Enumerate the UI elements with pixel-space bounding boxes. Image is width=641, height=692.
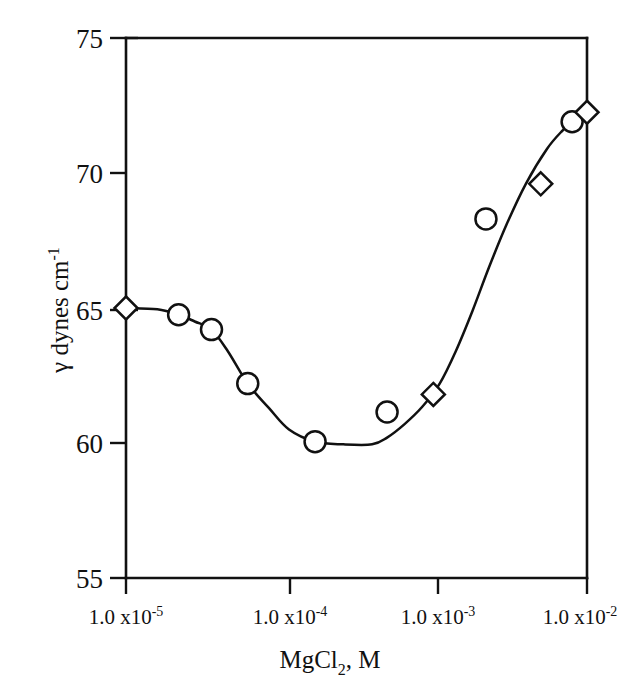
data-marker-circle xyxy=(377,401,398,422)
y-tick-label-65: 65 xyxy=(76,296,103,326)
data-marker-diamond xyxy=(529,172,552,195)
x-axis-title-pre: MgCl xyxy=(279,646,337,673)
data-marker-circle xyxy=(237,373,258,394)
figure-container: 75 70 65 60 55 1.0 x10-5 1.0 x10-4 1.0 x… xyxy=(0,0,641,692)
y-tick-label-75: 75 xyxy=(76,24,103,54)
y-axis-title-pre: γ dynes cm xyxy=(46,260,73,374)
x-axis-ticks xyxy=(126,578,587,594)
x-tick-label-1e-2-exponent: -2 xyxy=(606,604,618,619)
y-axis-title: γ dynes cm-1 xyxy=(45,247,73,374)
data-marker-circle xyxy=(475,208,496,229)
y-tick-label-60: 60 xyxy=(76,429,103,459)
x-tick-label-1e-2-mantissa: 1.0 x10 xyxy=(543,605,606,629)
data-marker-circle xyxy=(201,319,222,340)
x-tick-label-1e-5-mantissa: 1.0 x10 xyxy=(89,605,152,629)
y-tick-labels: 75 70 65 60 55 xyxy=(76,24,103,594)
x-tick-label-1e-3: 1.0 x10-3 xyxy=(401,604,476,629)
x-tick-label-1e-4: 1.0 x10-4 xyxy=(253,604,328,629)
x-tick-labels: 1.0 x10-5 1.0 x10-4 1.0 x10-3 1.0 x10-2 xyxy=(89,604,618,629)
x-tick-label-1e-4-exponent: -4 xyxy=(316,604,328,619)
x-tick-label-1e-5-exponent: -5 xyxy=(152,604,164,619)
x-axis-title-sub: 2 xyxy=(338,661,346,678)
data-markers-layer xyxy=(115,101,599,452)
y-axis-title-sup: -1 xyxy=(45,247,62,260)
data-marker-circle xyxy=(305,431,326,452)
x-axis-title: MgCl2, M xyxy=(279,646,380,678)
x-axis-title-post: , M xyxy=(346,646,381,673)
y-tick-label-70: 70 xyxy=(76,159,103,189)
x-tick-label-1e-3-exponent: -3 xyxy=(464,604,476,619)
x-tick-label-1e-4-mantissa: 1.0 x10 xyxy=(253,605,316,629)
data-marker-circle xyxy=(168,304,189,325)
data-marker-diamond xyxy=(115,297,138,320)
x-tick-label-1e-2: 1.0 x10-2 xyxy=(543,604,618,629)
fitted-curve-path xyxy=(126,111,587,445)
y-tick-label-55: 55 xyxy=(76,564,103,594)
plot-frame xyxy=(126,38,587,578)
x-tick-label-1e-3-mantissa: 1.0 x10 xyxy=(401,605,464,629)
x-tick-label-1e-5: 1.0 x10-5 xyxy=(89,604,164,629)
chart-canvas: 75 70 65 60 55 1.0 x10-5 1.0 x10-4 1.0 x… xyxy=(0,0,641,692)
